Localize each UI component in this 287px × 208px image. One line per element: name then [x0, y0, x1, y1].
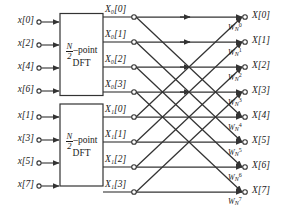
twiddle-label-3: WN3 [228, 97, 242, 107]
intermediate-label-5: X₁[1] [105, 129, 126, 139]
output-label-7: X[7] [252, 185, 270, 195]
dft-block-top-name: DFT [60, 58, 103, 68]
straight-paths [136, 17, 242, 192]
twiddle-label-7: WN7 [228, 196, 242, 206]
twiddle-label-4: WN4 [228, 122, 242, 132]
output-label-1: X[1] [252, 35, 270, 45]
twiddle-label-1: WN1 [228, 47, 242, 57]
intermediate-label-6: X₁[2] [105, 154, 126, 164]
signal-flow-wires [0, 0, 287, 208]
intermediate-label-1: X₀[1] [105, 29, 126, 39]
intermediate-label-4: X₁[0] [105, 104, 126, 114]
input-label-1: x[2] [2, 38, 34, 48]
intermediate-label-7: X₁[3] [105, 179, 126, 189]
twiddle-label-5: WN5 [228, 147, 242, 157]
output-label-6: X[6] [252, 160, 270, 170]
input-label-7: x[7] [2, 179, 34, 189]
output-label-3: X[3] [252, 85, 270, 95]
twiddle-label-0: WN0 [228, 22, 242, 32]
output-label-2: X[2] [252, 60, 270, 70]
intermediate-nodes [132, 15, 137, 195]
input-stubs [37, 20, 59, 188]
input-label-5: x[3] [2, 133, 34, 143]
input-label-3: x[6] [2, 84, 34, 94]
input-label-0: x[0] [2, 15, 34, 25]
output-label-4: X[4] [252, 110, 270, 120]
dft-top-point-word: –point [73, 45, 97, 55]
twiddle-label-6: WN6 [228, 172, 242, 182]
fft-butterfly-diagram: x[0] x[2] x[4] x[6] x[1] x[3] x[5] x[7] … [0, 0, 287, 208]
input-label-6: x[5] [2, 156, 34, 166]
input-label-2: x[4] [2, 61, 34, 71]
output-label-5: X[5] [252, 135, 270, 145]
input-label-4: x[1] [2, 110, 34, 120]
dft-block-outlines [60, 14, 103, 187]
twiddle-label-2: WN2 [228, 72, 242, 82]
output-label-0: X[0] [252, 10, 270, 20]
mid-arrowheads [180, 17, 190, 92]
dft-block-bottom-name: DFT [60, 148, 103, 158]
output-nodes [243, 15, 248, 195]
butterfly-crossings [136, 17, 242, 192]
intermediate-label-2: X₀[2] [105, 54, 126, 64]
intermediate-label-3: X₀[3] [105, 79, 126, 89]
intermediate-label-0: X₀[0] [105, 4, 126, 14]
dft-bottom-point-word: –point [73, 135, 97, 145]
